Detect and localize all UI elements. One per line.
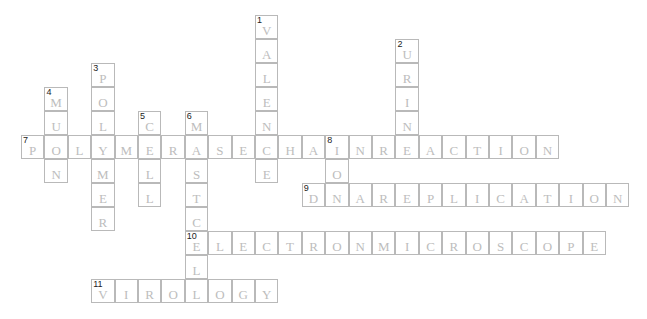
crossword-cell[interactable]: 6M — [185, 111, 208, 135]
crossword-cell[interactable]: N — [395, 111, 418, 135]
crossword-cell[interactable]: N — [255, 111, 278, 135]
crossword-cell[interactable]: P — [419, 183, 442, 207]
crossword-cell[interactable]: O — [512, 135, 535, 159]
crossword-cell[interactable]: R — [91, 207, 114, 231]
cell-letter: E — [139, 143, 160, 159]
crossword-cell[interactable]: R — [372, 183, 395, 207]
crossword-cell[interactable]: O — [91, 87, 114, 111]
crossword-cell[interactable]: T — [185, 183, 208, 207]
crossword-cell[interactable]: 7P — [21, 135, 44, 159]
crossword-cell[interactable]: L — [255, 63, 278, 87]
crossword-cell[interactable]: E — [91, 183, 114, 207]
crossword-cell[interactable]: L — [68, 135, 91, 159]
crossword-cell[interactable]: O — [583, 183, 606, 207]
cell-letter: N — [350, 143, 371, 159]
crossword-cell[interactable]: I — [489, 135, 512, 159]
crossword-cell[interactable]: L — [208, 231, 231, 255]
crossword-cell[interactable]: U — [44, 111, 67, 135]
crossword-cell[interactable]: A — [255, 39, 278, 63]
crossword-cell[interactable]: A — [185, 135, 208, 159]
crossword-cell[interactable]: A — [302, 135, 325, 159]
crossword-cell[interactable]: O — [44, 135, 67, 159]
crossword-cell[interactable]: R — [372, 135, 395, 159]
crossword-cell[interactable]: E — [232, 231, 255, 255]
crossword-cell[interactable]: C — [185, 207, 208, 231]
cell-letter: I — [467, 191, 488, 207]
cell-letter: I — [490, 143, 511, 159]
crossword-cell[interactable]: I — [115, 279, 138, 303]
cell-letter: I — [396, 239, 417, 255]
crossword-cell[interactable]: 3P — [91, 63, 114, 87]
crossword-cell[interactable]: 2U — [395, 39, 418, 63]
crossword-cell[interactable]: N — [325, 183, 348, 207]
crossword-cell[interactable]: T — [278, 231, 301, 255]
crossword-cell[interactable]: C — [419, 231, 442, 255]
crossword-cell[interactable]: E — [583, 231, 606, 255]
crossword-cell[interactable]: L — [185, 255, 208, 279]
crossword-cell[interactable]: L — [138, 183, 161, 207]
crossword-cell[interactable]: O — [208, 279, 231, 303]
crossword-cell[interactable]: C — [489, 183, 512, 207]
crossword-cell[interactable]: 10E — [185, 231, 208, 255]
crossword-cell[interactable]: H — [278, 135, 301, 159]
crossword-cell[interactable]: P — [559, 231, 582, 255]
crossword-cell[interactable]: I — [559, 183, 582, 207]
crossword-cell[interactable]: A — [349, 183, 372, 207]
crossword-cell[interactable]: L — [91, 111, 114, 135]
crossword-cell[interactable]: R — [138, 279, 161, 303]
crossword-cell[interactable]: R — [161, 135, 184, 159]
cell-letter: O — [209, 287, 230, 303]
crossword-cell[interactable]: E — [395, 135, 418, 159]
crossword-cell[interactable]: C — [255, 231, 278, 255]
crossword-cell[interactable]: 11V — [91, 279, 114, 303]
crossword-cell[interactable]: C — [442, 135, 465, 159]
cell-letter: T — [186, 191, 207, 207]
crossword-cell[interactable]: L — [138, 159, 161, 183]
crossword-cell[interactable]: M — [115, 135, 138, 159]
crossword-cell[interactable]: L — [442, 183, 465, 207]
crossword-cell[interactable]: 5C — [138, 111, 161, 135]
crossword-cell[interactable]: N — [606, 183, 629, 207]
crossword-cell[interactable]: 4M — [44, 87, 67, 111]
crossword-cell[interactable]: S — [489, 231, 512, 255]
crossword-cell[interactable]: I — [466, 183, 489, 207]
crossword-cell[interactable]: C — [255, 135, 278, 159]
crossword-cell[interactable]: N — [349, 135, 372, 159]
crossword-cell[interactable]: E — [138, 135, 161, 159]
crossword-cell[interactable]: S — [208, 135, 231, 159]
crossword-cell[interactable]: O — [325, 159, 348, 183]
crossword-cell[interactable]: N — [44, 159, 67, 183]
crossword-cell[interactable]: N — [536, 135, 559, 159]
crossword-cell[interactable]: O — [325, 231, 348, 255]
crossword-cell[interactable]: 9D — [302, 183, 325, 207]
crossword-cell[interactable]: S — [185, 159, 208, 183]
crossword-cell[interactable]: A — [512, 183, 535, 207]
crossword-cell[interactable]: M — [372, 231, 395, 255]
crossword-cell[interactable]: O — [161, 279, 184, 303]
crossword-cell[interactable]: N — [349, 231, 372, 255]
crossword-cell[interactable]: L — [185, 279, 208, 303]
cell-letter: S — [209, 143, 230, 159]
crossword-cell[interactable]: E — [232, 135, 255, 159]
crossword-cell[interactable]: I — [395, 87, 418, 111]
crossword-cell[interactable]: E — [255, 87, 278, 111]
cell-letter: O — [162, 287, 183, 303]
crossword-cell[interactable]: R — [395, 63, 418, 87]
crossword-cell[interactable]: 8I — [325, 135, 348, 159]
crossword-cell[interactable]: M — [91, 159, 114, 183]
crossword-cell[interactable]: O — [466, 231, 489, 255]
crossword-cell[interactable]: E — [255, 159, 278, 183]
crossword-cell[interactable]: Y — [91, 135, 114, 159]
crossword-cell[interactable]: C — [512, 231, 535, 255]
crossword-cell[interactable]: 1V — [255, 15, 278, 39]
crossword-cell[interactable]: G — [232, 279, 255, 303]
crossword-cell[interactable]: E — [395, 183, 418, 207]
crossword-cell[interactable]: I — [395, 231, 418, 255]
crossword-cell[interactable]: A — [419, 135, 442, 159]
crossword-cell[interactable]: T — [466, 135, 489, 159]
crossword-cell[interactable]: T — [536, 183, 559, 207]
crossword-cell[interactable]: Y — [255, 279, 278, 303]
crossword-cell[interactable]: R — [442, 231, 465, 255]
crossword-cell[interactable]: O — [536, 231, 559, 255]
crossword-cell[interactable]: R — [302, 231, 325, 255]
